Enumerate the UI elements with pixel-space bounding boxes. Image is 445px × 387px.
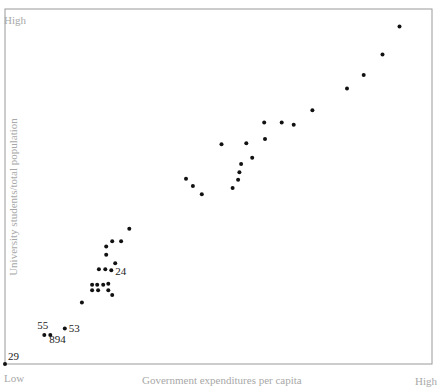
data-point	[109, 268, 113, 272]
data-point	[127, 227, 131, 231]
data-point	[345, 87, 349, 91]
data-point	[310, 108, 314, 112]
data-point	[184, 177, 188, 181]
data-point	[110, 239, 114, 243]
point-label: 55	[37, 319, 49, 331]
point-label: 29	[8, 350, 20, 362]
data-point	[103, 267, 107, 271]
data-point	[200, 192, 204, 196]
data-point	[80, 301, 84, 305]
plot-frame	[5, 9, 432, 364]
data-point	[95, 283, 99, 287]
x-axis-low-label: Low	[4, 372, 24, 384]
data-point	[96, 288, 100, 292]
data-point	[231, 186, 235, 190]
x-axis-title: Government expenditures per capita	[142, 374, 302, 386]
data-point	[250, 156, 254, 160]
data-point	[280, 121, 284, 125]
y-axis-high-label: High	[4, 14, 26, 26]
data-point	[220, 142, 224, 146]
data-point	[119, 239, 123, 243]
data-point	[90, 288, 94, 292]
data-point	[42, 333, 46, 337]
point-label: 53	[69, 322, 81, 334]
x-axis-high-label: High	[415, 375, 437, 387]
data-point	[106, 282, 110, 286]
data-point	[104, 253, 108, 257]
data-point	[104, 245, 108, 249]
point-label: 894	[49, 333, 66, 345]
data-point	[292, 123, 296, 127]
data-points: 29558945324	[3, 24, 402, 366]
data-point	[90, 283, 94, 287]
data-point	[63, 327, 67, 331]
data-point	[236, 178, 240, 182]
data-point	[3, 362, 7, 366]
data-point	[362, 73, 366, 77]
data-point	[239, 162, 243, 166]
data-point	[106, 288, 110, 292]
data-point	[381, 52, 385, 56]
data-point	[191, 184, 195, 188]
data-point	[398, 24, 402, 28]
y-axis-title: University students/total population	[7, 118, 19, 276]
data-point	[262, 121, 266, 125]
data-point	[110, 293, 114, 297]
data-point	[101, 283, 105, 287]
data-point	[244, 141, 248, 145]
data-point	[263, 137, 267, 141]
point-label: 24	[115, 265, 127, 277]
data-point	[113, 261, 117, 265]
data-point	[97, 267, 101, 271]
data-point	[237, 170, 241, 174]
